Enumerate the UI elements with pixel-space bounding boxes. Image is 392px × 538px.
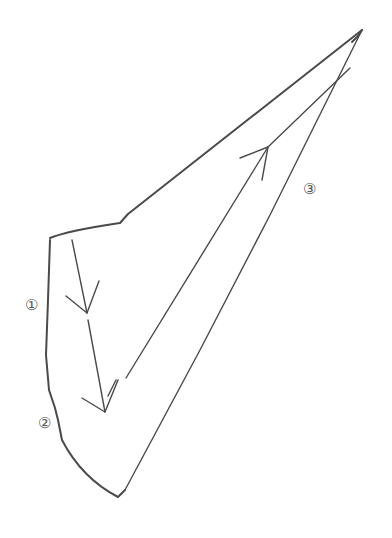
arrow-2-down [82,320,118,412]
label-2: ② [35,414,53,432]
arrow-3-up [126,147,268,378]
diagram-canvas: ① ② ③ [0,0,392,538]
right-edge-line [125,30,362,490]
arrow-1-down [66,240,99,313]
top-edge-line [50,30,362,238]
label-1: ① [22,296,40,314]
label-3: ③ [300,180,318,198]
sketch-drawing [0,0,392,538]
left-curve-line [46,240,125,497]
